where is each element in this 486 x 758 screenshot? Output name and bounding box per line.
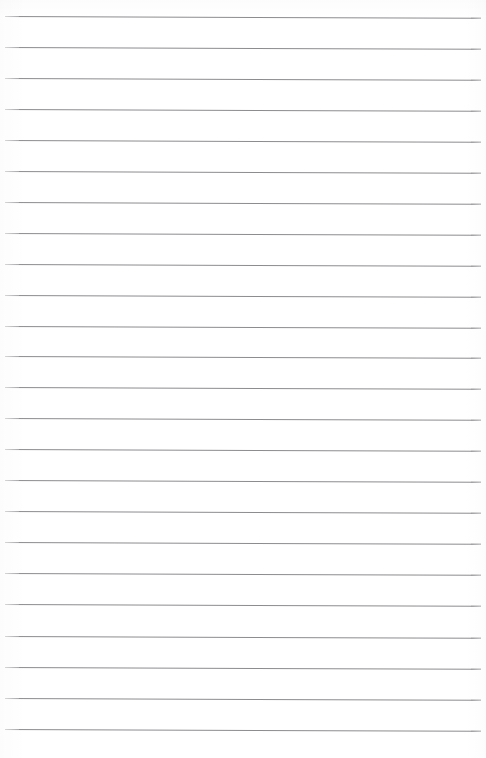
lined-paper-page — [0, 0, 486, 758]
writing-area[interactable] — [0, 0, 486, 758]
